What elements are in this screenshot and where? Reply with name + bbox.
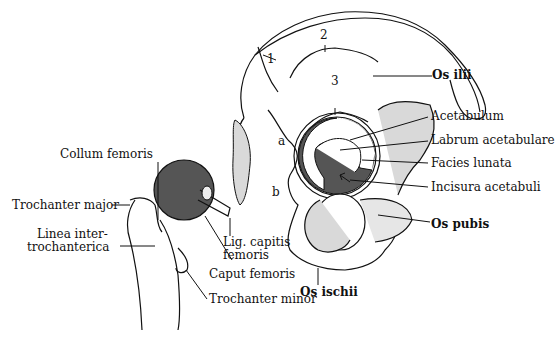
label-incisura-acetabuli: Incisura acetabuli bbox=[431, 181, 541, 194]
marker-b: b bbox=[272, 185, 280, 199]
label-trochanter-major: Trochanter major bbox=[12, 199, 119, 212]
label-caput-femoris: Caput femoris bbox=[209, 268, 295, 281]
marker-2: 2 bbox=[320, 28, 328, 42]
label-facies-lunata: Facies lunata bbox=[431, 157, 512, 170]
marker-3: 3 bbox=[331, 74, 339, 88]
label-os-ischii: Os ischii bbox=[300, 286, 358, 299]
marker-1: 1 bbox=[267, 52, 275, 66]
marker-a: a bbox=[278, 134, 285, 148]
label-os-ilii: Os ilii bbox=[432, 69, 472, 82]
os-ilii-outline bbox=[241, 12, 486, 119]
label-linea-inter-2: trochanterica bbox=[27, 241, 110, 254]
label-lig-capitis-2: femoris bbox=[223, 249, 269, 262]
label-acetabulum: Acetabulum bbox=[431, 110, 504, 123]
label-labrum-acetabulare: Labrum acetabulare bbox=[431, 134, 555, 147]
label-collum-femoris: Collum femoris bbox=[60, 148, 153, 161]
label-os-pubis: Os pubis bbox=[431, 218, 489, 231]
